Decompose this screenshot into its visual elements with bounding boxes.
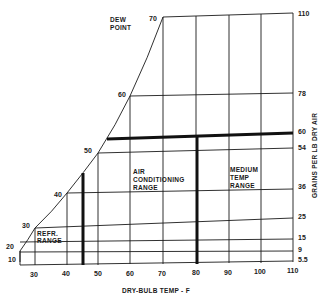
- svg-text:30: 30: [22, 222, 30, 229]
- svg-text:AIR: AIR: [133, 168, 145, 175]
- svg-text:9: 9: [298, 246, 302, 253]
- dew-point-label-2: POINT: [110, 24, 131, 31]
- right-axis-ticks: 110 78 60 54 36 25 15 9 5.5: [298, 10, 309, 263]
- svg-text:25: 25: [298, 213, 306, 220]
- svg-text:60: 60: [126, 270, 134, 277]
- svg-text:RANGE: RANGE: [133, 184, 158, 191]
- svg-text:100: 100: [254, 268, 266, 275]
- y-axis-label: GRAINS PER LB DRY AIR: [311, 113, 318, 198]
- svg-text:15: 15: [298, 234, 306, 241]
- svg-text:78: 78: [298, 90, 306, 97]
- svg-text:5.5: 5.5: [298, 256, 308, 263]
- refr-range-label: REFR. RANGE: [37, 230, 62, 244]
- x-axis-ticks: 30 40 50 60 70 80 90 100 110: [30, 267, 298, 278]
- svg-text:40: 40: [54, 191, 62, 198]
- svg-text:30: 30: [30, 271, 38, 278]
- svg-text:60: 60: [118, 91, 126, 98]
- svg-text:RANGE: RANGE: [37, 237, 62, 244]
- svg-text:40: 40: [62, 270, 70, 277]
- x-axis-label: DRY-BULB TEMP - F: [122, 287, 190, 294]
- svg-text:54: 54: [298, 144, 306, 151]
- air-conditioning-range-label: AIR CONDITIONING RANGE: [133, 168, 185, 191]
- svg-text:110: 110: [287, 267, 298, 274]
- svg-text:TEMP: TEMP: [230, 174, 250, 181]
- svg-text:MEDIUM: MEDIUM: [230, 166, 258, 173]
- svg-text:90: 90: [224, 269, 232, 276]
- psychrometric-chart: DEW POINT 70 60 50 40 30 20 10 110 78 60…: [0, 0, 326, 300]
- svg-text:50: 50: [84, 147, 92, 154]
- dew-point-curve: [20, 17, 163, 262]
- svg-text:60: 60: [298, 128, 306, 135]
- svg-text:REFR.: REFR.: [37, 230, 58, 237]
- svg-text:RANGE: RANGE: [230, 182, 255, 189]
- svg-text:70: 70: [158, 270, 166, 277]
- horizontal-gridlines: [20, 13, 293, 265]
- svg-text:50: 50: [94, 270, 102, 277]
- svg-text:CONDITIONING: CONDITIONING: [133, 176, 185, 183]
- dew-point-label: DEW: [110, 16, 127, 23]
- svg-text:80: 80: [192, 269, 200, 276]
- svg-text:20: 20: [6, 243, 14, 250]
- medium-temp-range-label: MEDIUM TEMP RANGE: [230, 166, 258, 189]
- svg-text:70: 70: [149, 15, 157, 22]
- svg-text:110: 110: [298, 10, 309, 17]
- svg-text:36: 36: [298, 183, 306, 190]
- svg-text:10: 10: [8, 256, 16, 263]
